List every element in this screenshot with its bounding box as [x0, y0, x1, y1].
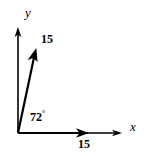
degree-symbol-icon: °: [42, 109, 45, 118]
angle-value: 72: [30, 110, 42, 124]
diagram-canvas: [0, 0, 147, 156]
angle-label: 72°: [30, 110, 45, 123]
x-axis-label: x: [130, 120, 136, 133]
slanted-vector-magnitude-label: 15: [41, 33, 53, 45]
vector-diagram-figure: y x 15 72° 15: [0, 0, 147, 156]
y-axis-label: y: [25, 6, 31, 19]
horizontal-vector-magnitude-label: 15: [78, 138, 90, 150]
